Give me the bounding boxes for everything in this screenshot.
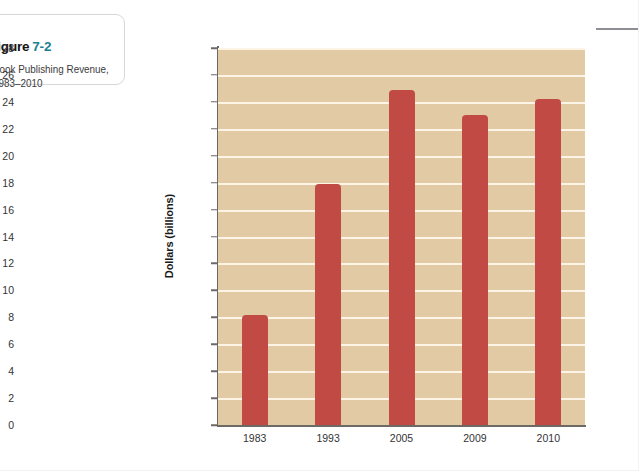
y-tick-label: 14 [0,231,14,243]
y-tick-label: 28 [0,42,14,54]
bar-2010 [535,99,561,425]
scan-artifact-line [596,28,639,30]
y-tick-label: 0 [0,419,14,431]
bar-chart-plot-area [218,48,585,425]
y-tick-label: 26 [0,69,14,81]
bar-2009 [462,115,488,425]
y-tick-label: 4 [0,365,14,377]
x-axis-line [217,425,586,427]
y-tick-label: 6 [0,338,14,350]
bar-2005 [389,90,415,425]
bar-1993 [315,184,341,425]
figure-number: 7-2 [32,39,51,54]
x-tick-label: 1993 [298,432,358,444]
x-tick-label: 2009 [445,432,505,444]
figure-caption-text: Book Publishing Revenue, 1983–2010 [0,62,111,92]
x-tick-label: 1983 [225,432,285,444]
gridline [218,75,585,77]
gridline [218,48,585,50]
y-tick-label: 12 [0,257,14,269]
y-tick-label: 22 [0,123,14,135]
y-tick-label: 10 [0,284,14,296]
y-tick-label: 20 [0,150,14,162]
y-tick-label: 18 [0,177,14,189]
figure-heading: figure7-2 [0,40,118,54]
y-tick-label: 16 [0,204,14,216]
y-axis-title: Dollars (billions) [163,194,175,278]
y-tick-label: 2 [0,392,14,404]
y-tick-label: 24 [0,96,14,108]
figure-caption-inner: figure7-2 Book Publishing Revenue, 1983–… [0,40,118,91]
x-tick-label: 2005 [372,432,432,444]
y-tick-label: 8 [0,311,14,323]
figure-caption-card: figure7-2 Book Publishing Revenue, 1983–… [0,14,125,85]
x-tick-label: 2010 [518,432,578,444]
bar-1983 [242,315,268,425]
